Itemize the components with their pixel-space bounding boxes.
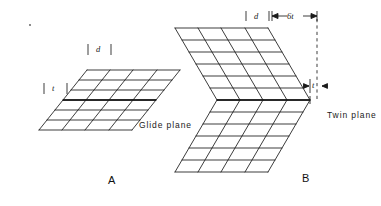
panel-b-group bbox=[175, 11, 328, 172]
scan-speck bbox=[29, 24, 31, 26]
panel-b-6t-dimension bbox=[272, 11, 317, 21]
panel-b-d-label: d bbox=[254, 11, 258, 21]
panel-b-lower-block bbox=[175, 100, 310, 172]
glide-plane-label: Glide plane bbox=[139, 120, 192, 130]
panel-a-d-label: d bbox=[96, 44, 100, 54]
panel-b-t-dimension bbox=[303, 79, 328, 93]
panel-b-letter: B bbox=[302, 172, 310, 184]
panel-b-t-label: t bbox=[312, 80, 314, 90]
panel-a-t-ticks bbox=[44, 83, 67, 94]
panel-a-letter: A bbox=[108, 174, 116, 186]
figure-container: d t Glide plane A d 6t t Twin plane B bbox=[0, 0, 381, 206]
panel-a-group bbox=[39, 44, 180, 130]
twin-plane-label: Twin plane bbox=[327, 110, 377, 120]
panel-a-t-label: t bbox=[52, 83, 54, 93]
panel-b-6t-label: 6t bbox=[287, 11, 294, 21]
crystal-deformation-diagram bbox=[0, 0, 381, 206]
panel-a-upper-block bbox=[63, 70, 180, 100]
panel-b-upper-block bbox=[175, 28, 310, 100]
